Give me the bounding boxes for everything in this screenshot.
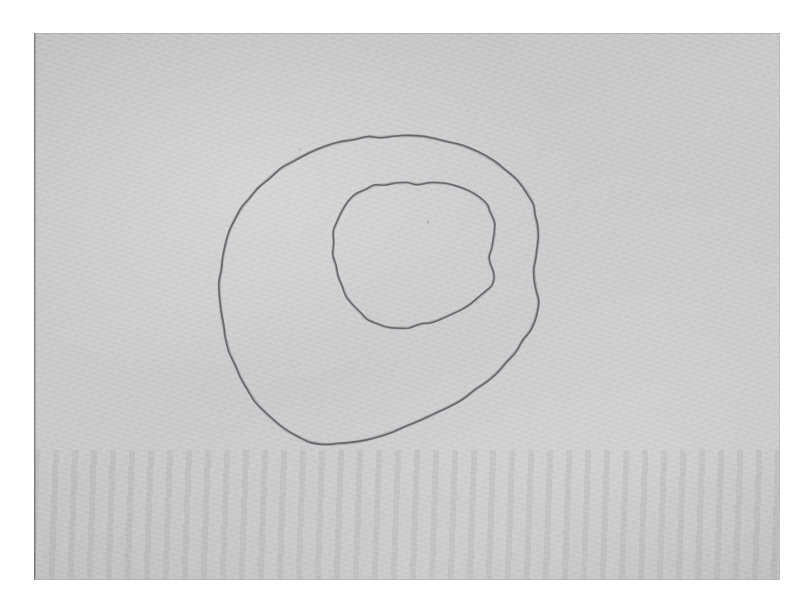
- paper-edge-bottom: [34, 579, 780, 580]
- graphite-speck: [299, 149, 301, 151]
- outer-loop: [219, 135, 539, 444]
- graphite-specks-group: [299, 149, 430, 224]
- outer-loop-shadow: [219, 136, 538, 445]
- inner-loop-shadow: [333, 183, 495, 328]
- graphite-speck: [426, 220, 429, 223]
- paper-tone-layer: [34, 33, 780, 580]
- paper-sheet: [34, 33, 780, 580]
- outer-loop-group: [219, 135, 539, 444]
- paper-edge-right: [779, 33, 780, 580]
- inner-loop-group: [333, 182, 495, 328]
- paper-smudge-band: [34, 450, 780, 580]
- pencil-drawing-layer: [34, 33, 780, 580]
- paper-edge-top: [34, 33, 780, 34]
- paper-edge-left: [34, 33, 36, 580]
- inner-loop: [333, 182, 495, 328]
- paper-grain-texture: [34, 33, 780, 580]
- scan-canvas: [0, 0, 811, 608]
